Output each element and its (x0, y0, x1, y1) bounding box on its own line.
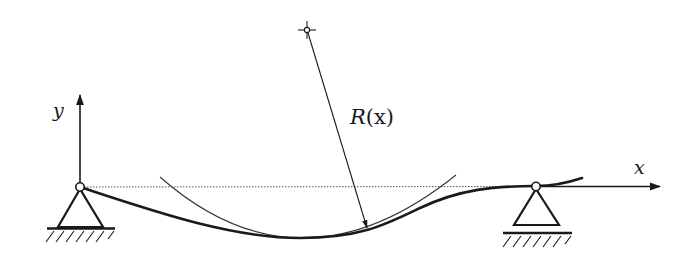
radius-label: R(x) (349, 105, 394, 129)
y-axis-label: y (52, 99, 64, 121)
pin-support-left (46, 183, 115, 242)
pin-support-right (503, 182, 572, 247)
pin-joint-right (532, 182, 540, 190)
undeformed-axis-dotted-line (84, 187, 531, 188)
x-axis-label: x (634, 156, 645, 178)
radius-argument: (x) (366, 105, 394, 129)
ground-hatching-left (46, 231, 114, 242)
radius-of-curvature-arrow (308, 33, 367, 228)
support-triangle-right (514, 189, 559, 225)
radius-symbol: R (349, 105, 366, 129)
ground-hatching-right (503, 236, 571, 247)
beam-curvature-diagram: x y R(x) (0, 0, 683, 264)
center-of-curvature-point (298, 21, 316, 39)
curvature-circle-arc (160, 175, 456, 238)
support-triangle-left (58, 189, 103, 227)
pin-joint-left (76, 183, 84, 191)
